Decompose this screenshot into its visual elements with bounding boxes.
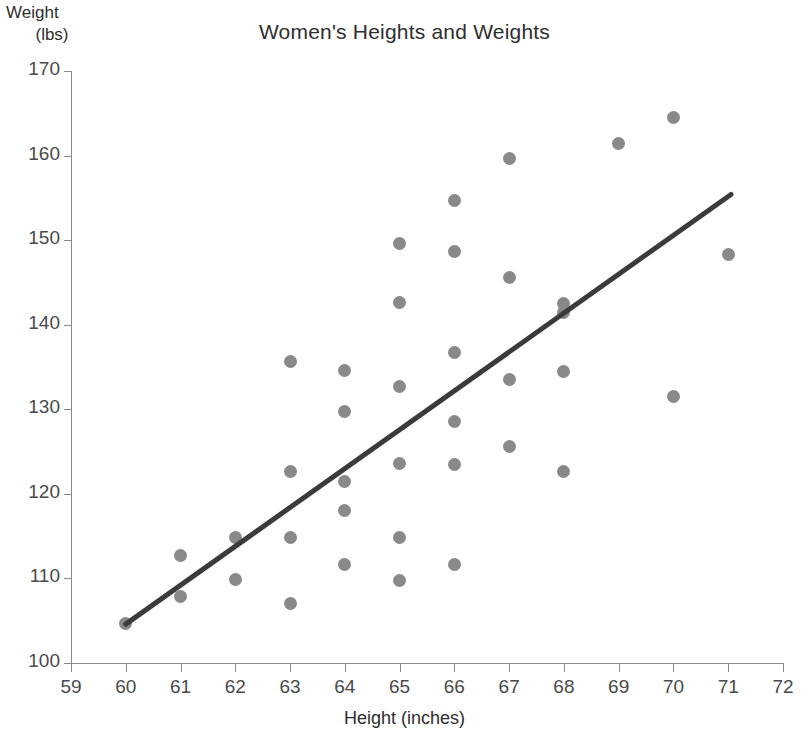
data-point — [448, 415, 461, 428]
data-point — [612, 137, 625, 150]
x-tick-label: 66 — [434, 676, 474, 698]
x-tick-mark — [509, 664, 510, 672]
y-tick-label: 110 — [0, 565, 60, 587]
x-tick-mark — [290, 664, 291, 672]
data-point — [448, 458, 461, 471]
x-tick-mark — [235, 664, 236, 672]
data-point — [338, 405, 351, 418]
x-tick-mark — [71, 664, 72, 672]
data-point — [229, 531, 242, 544]
data-point — [284, 355, 297, 368]
data-point — [448, 245, 461, 258]
data-point — [338, 558, 351, 571]
x-tick-label: 65 — [380, 676, 420, 698]
x-tick-mark — [126, 664, 127, 672]
x-tick-label: 69 — [599, 676, 639, 698]
x-tick-label: 67 — [489, 676, 529, 698]
x-tick-label: 62 — [215, 676, 255, 698]
data-point — [174, 590, 187, 603]
y-tick-label: 130 — [0, 396, 60, 418]
x-tick-label: 68 — [544, 676, 584, 698]
x-axis-label: Height (inches) — [0, 708, 809, 729]
y-tick-label: 100 — [0, 650, 60, 672]
x-tick-mark — [564, 664, 565, 672]
x-tick-label: 64 — [325, 676, 365, 698]
x-tick-mark — [400, 664, 401, 672]
x-tick-mark — [454, 664, 455, 672]
data-point — [284, 531, 297, 544]
data-point — [503, 440, 516, 453]
x-tick-label: 63 — [270, 676, 310, 698]
y-axis-label-line1: Weight — [4, 2, 100, 24]
data-point — [448, 558, 461, 571]
x-tick-label: 72 — [763, 676, 803, 698]
data-point — [503, 373, 516, 386]
data-point — [503, 271, 516, 284]
data-point — [393, 237, 406, 250]
y-tick-label: 120 — [0, 481, 60, 503]
data-point — [338, 504, 351, 517]
data-point — [448, 194, 461, 207]
data-point — [667, 390, 680, 403]
data-point — [393, 380, 406, 393]
data-point — [393, 457, 406, 470]
data-point — [503, 152, 516, 165]
data-point — [284, 465, 297, 478]
data-point — [393, 574, 406, 587]
plot-area — [71, 71, 783, 663]
x-tick-mark — [673, 664, 674, 672]
x-axis-line — [71, 663, 784, 664]
x-tick-label: 71 — [708, 676, 748, 698]
data-point — [284, 597, 297, 610]
data-point — [557, 306, 570, 319]
chart-title: Women's Heights and Weights — [0, 20, 809, 44]
data-point — [174, 549, 187, 562]
data-point — [448, 346, 461, 359]
scatter-chart: Women's Heights and Weights Weight (lbs)… — [0, 0, 809, 750]
data-point — [393, 296, 406, 309]
y-tick-label: 160 — [0, 143, 60, 165]
x-tick-mark — [181, 664, 182, 672]
x-tick-mark — [345, 664, 346, 672]
x-tick-mark — [619, 664, 620, 672]
data-point — [667, 111, 680, 124]
data-point — [393, 531, 406, 544]
y-tick-label: 150 — [0, 227, 60, 249]
data-point — [338, 364, 351, 377]
data-point — [557, 465, 570, 478]
data-point — [557, 365, 570, 378]
data-point — [229, 573, 242, 586]
data-point — [338, 475, 351, 488]
y-axis-label-line2: (lbs) — [4, 24, 100, 46]
x-tick-label: 59 — [51, 676, 91, 698]
y-tick-label: 140 — [0, 312, 60, 334]
x-tick-label: 61 — [161, 676, 201, 698]
x-tick-mark — [783, 664, 784, 672]
y-tick-label: 170 — [0, 58, 60, 80]
y-axis-label: Weight (lbs) — [4, 2, 100, 46]
x-tick-label: 70 — [653, 676, 693, 698]
data-point — [119, 617, 132, 630]
x-tick-mark — [728, 664, 729, 672]
x-tick-label: 60 — [106, 676, 146, 698]
data-point — [722, 248, 735, 261]
